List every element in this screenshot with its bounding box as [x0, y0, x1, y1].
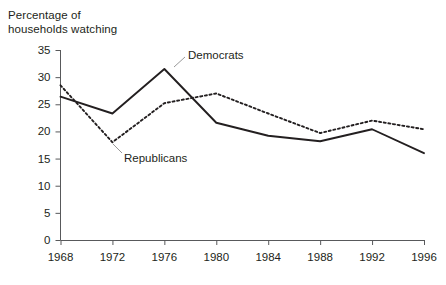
y-tick-marks: [56, 51, 61, 241]
x-tick-label: 1992: [359, 251, 385, 263]
x-tick-label: 1972: [100, 251, 126, 263]
y-tick-labels: 05101520253035: [38, 44, 51, 246]
chart-container: Percentage of households watching 051015…: [0, 0, 446, 285]
series-label-democrats: Democrats: [188, 49, 244, 61]
y-tick-label: 10: [38, 180, 51, 192]
x-tick-labels: 19681972197619801984198819921996: [48, 251, 437, 263]
x-axis: 19681972197619801984198819921996: [48, 240, 437, 263]
x-tick-label: 1980: [203, 251, 229, 263]
y-tick-label: 20: [38, 125, 51, 137]
x-tick-label: 1968: [48, 251, 74, 263]
line-chart-plot: 05101520253035 1968197219761980198419881…: [0, 0, 446, 285]
x-tick-label: 1996: [411, 251, 437, 263]
y-tick-label: 15: [38, 153, 51, 165]
x-tick-label: 1976: [152, 251, 178, 263]
y-axis: 05101520253035: [38, 44, 61, 246]
x-tick-label: 1984: [255, 251, 281, 263]
leader-line-republicans: [113, 144, 122, 153]
y-tick-label: 30: [38, 71, 51, 83]
series-label-republicans: Republicans: [124, 152, 188, 164]
leader-line-democrats: [174, 57, 185, 67]
y-tick-label: 0: [44, 234, 50, 246]
y-tick-label: 5: [44, 207, 50, 219]
y-tick-label: 25: [38, 98, 51, 110]
x-tick-label: 1988: [307, 251, 333, 263]
y-tick-label: 35: [38, 44, 51, 56]
series-line-republicans: [61, 85, 425, 142]
